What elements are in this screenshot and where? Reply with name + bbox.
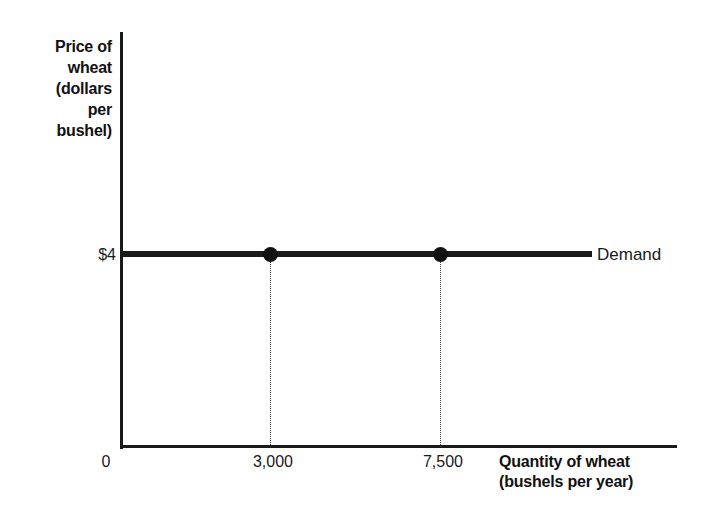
demand-curve-chart: Price of wheat (dollars per bushel) $4 0…	[0, 0, 705, 515]
x-axis-title-line-1: Quantity of wheat	[499, 452, 699, 472]
y-axis-title-line-5: bushel)	[8, 120, 112, 141]
demand-series-label: Demand	[597, 245, 661, 265]
demand-curve-line	[120, 251, 592, 257]
x-axis-title-line-2: (bushels per year)	[499, 472, 699, 492]
dropline-7500	[440, 262, 441, 447]
x-axis-tick-label-7500: 7,500	[403, 453, 483, 471]
x-axis-title: Quantity of wheat (bushels per year)	[499, 452, 699, 492]
x-axis-tick-label-origin: 0	[96, 453, 116, 471]
x-axis-line	[120, 445, 677, 448]
x-axis-tick-label-3000: 3,000	[233, 453, 313, 471]
y-axis-tick-label-price: $4	[66, 246, 116, 264]
dropline-3000	[270, 262, 271, 447]
y-axis-title: Price of wheat (dollars per bushel)	[8, 36, 112, 141]
data-point-marker-3000	[263, 247, 278, 262]
y-axis-title-line-1: Price of	[8, 36, 112, 57]
y-axis-title-line-2: wheat	[8, 57, 112, 78]
y-axis-line	[120, 32, 123, 449]
data-point-marker-7500	[433, 247, 448, 262]
y-axis-title-line-4: per	[8, 99, 112, 120]
y-axis-title-line-3: (dollars	[8, 78, 112, 99]
